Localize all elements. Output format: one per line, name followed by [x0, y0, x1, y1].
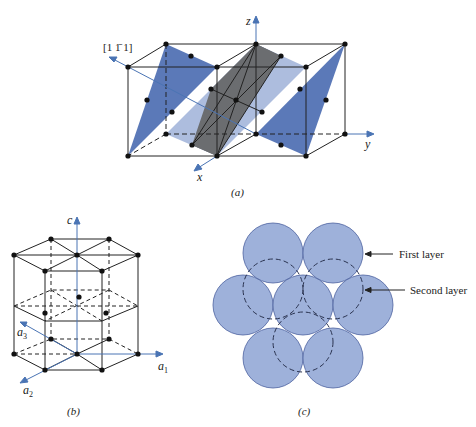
first-layer-spheres [213, 223, 393, 388]
caption-a: (a) [231, 186, 244, 199]
figure-a-fcc-slip-planes: z y x [1 1̄ 1] (a) [103, 14, 374, 199]
figure-b-hcp-cell: c a1 a2 a3 (b) [11, 213, 168, 418]
figure-c-close-packing: First layer Second layer (c) [213, 223, 467, 418]
axis-label-z: z [245, 14, 251, 28]
axis-label-y: y [364, 137, 371, 151]
axis-label-a2: a2 [23, 383, 33, 399]
axis-label-a3: a3 [17, 325, 27, 341]
caption-b: (b) [67, 405, 80, 418]
caption-c: (c) [298, 405, 311, 418]
first-layer-label: First layer [399, 248, 444, 260]
second-layer-label: Second layer [410, 284, 467, 296]
axis-label-c: c [67, 213, 73, 227]
crystal-structure-figure: z y x [1 1̄ 1] (a) [0, 0, 476, 427]
direction-label: [1 1̄ 1] [103, 41, 132, 53]
axis-label-a1: a1 [158, 359, 168, 375]
axis-label-x: x [196, 170, 203, 184]
